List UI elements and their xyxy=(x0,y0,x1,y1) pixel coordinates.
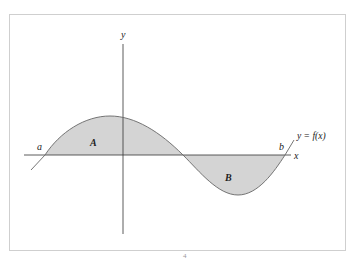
region-b-fill xyxy=(183,155,285,195)
y-axis-label: y xyxy=(120,29,126,40)
region-b-label: B xyxy=(224,172,232,183)
bound-a-label: a xyxy=(37,141,42,152)
caption-mark: 4 xyxy=(183,252,187,260)
area-under-curve-diagram: y x a b A B y = f(x) xyxy=(0,0,354,265)
region-a-fill xyxy=(45,116,183,155)
region-a-label: A xyxy=(89,137,97,148)
curve-equation-label: y = f(x) xyxy=(296,131,326,142)
x-axis-label: x xyxy=(293,150,299,161)
bound-b-label: b xyxy=(279,141,284,152)
